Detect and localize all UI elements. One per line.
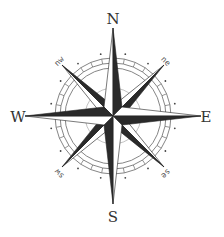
label-northeast: ne <box>159 55 172 68</box>
label-west: W <box>10 108 26 126</box>
label-southwest: sw <box>53 167 66 180</box>
cardinal-points <box>25 28 201 204</box>
label-north: N <box>106 10 119 28</box>
label-south: S <box>108 208 118 226</box>
compass-rose: N S W E nw ne sw se <box>0 0 224 237</box>
label-northwest: nw <box>53 55 66 68</box>
label-southeast: se <box>159 167 172 180</box>
label-east: E <box>201 108 212 126</box>
